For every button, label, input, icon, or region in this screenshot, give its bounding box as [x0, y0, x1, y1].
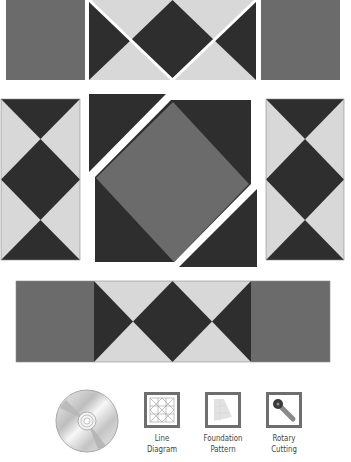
left-hourglass-column: [1, 99, 80, 260]
cd-disc-icon: [54, 388, 120, 454]
top-center-flying-geese-strip: [89, 0, 256, 80]
line-diagram-icon: [144, 392, 180, 428]
line-diagram-label: Line Diagram: [133, 432, 190, 454]
center-square-in-square: [86, 92, 261, 270]
foundation-pattern-label: Foundation Pattern: [194, 432, 251, 454]
rotary-cutting-icon: [266, 392, 302, 428]
top-left-medium-square: [6, 0, 85, 80]
right-hourglass-column: [266, 99, 344, 260]
top-right-medium-square: [261, 0, 340, 80]
foundation-pattern-icon: [205, 392, 241, 428]
rotary-cutting-label: Rotary Cutting: [255, 432, 312, 454]
bottom-assembled-strip: [16, 281, 330, 362]
